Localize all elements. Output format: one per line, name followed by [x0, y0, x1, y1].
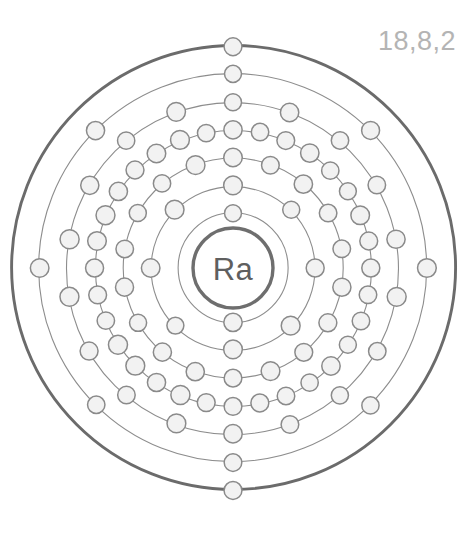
electron-m-16 — [129, 204, 146, 221]
electron-n-32 — [197, 124, 214, 141]
valence-configuration-label: 18,8,2 — [378, 28, 456, 55]
electron-m-10 — [224, 369, 242, 387]
electron-n-20 — [147, 373, 165, 391]
electron-m-7 — [319, 314, 337, 332]
electron-m-1 — [224, 148, 243, 167]
electron-m-2 — [262, 156, 280, 174]
electron-o-10 — [224, 425, 242, 443]
electron-o-13 — [80, 342, 98, 360]
electron-n-22 — [108, 335, 127, 354]
electron-p-3 — [418, 259, 437, 278]
electron-o-5 — [387, 230, 405, 248]
electron-m-17 — [153, 175, 170, 192]
electron-n-14 — [301, 374, 318, 391]
electron-m-9 — [261, 362, 280, 381]
electron-n-10 — [359, 286, 377, 304]
electron-o-1 — [224, 94, 241, 111]
electron-n-28 — [109, 182, 127, 200]
electron-n-26 — [88, 232, 107, 251]
electron-n-24 — [89, 286, 107, 304]
electron-n-21 — [126, 356, 145, 375]
electron-k-2 — [224, 313, 242, 331]
electron-n-11 — [352, 312, 370, 330]
electron-m-18 — [186, 156, 205, 175]
electron-m-14 — [116, 278, 134, 296]
electron-o-6 — [387, 287, 406, 306]
electron-n-19 — [171, 385, 190, 404]
electron-l-1 — [224, 176, 243, 195]
electron-n-8 — [360, 232, 378, 250]
electron-p-5 — [224, 454, 242, 472]
electron-m-12 — [153, 343, 171, 361]
electron-n-30 — [147, 144, 166, 163]
electron-n-29 — [126, 161, 144, 179]
electron-o-16 — [81, 176, 99, 194]
electron-n-7 — [351, 206, 370, 225]
electron-n-12 — [339, 336, 356, 353]
electron-k-1 — [225, 205, 242, 222]
electron-o-15 — [60, 230, 79, 249]
electron-m-8 — [295, 343, 313, 361]
electron-n-1 — [224, 121, 242, 139]
electron-o-11 — [167, 414, 186, 433]
electron-n-17 — [224, 398, 242, 416]
electron-o-12 — [118, 386, 136, 404]
electron-n-5 — [322, 162, 339, 179]
electron-p-6 — [88, 396, 105, 413]
electron-m-6 — [333, 278, 351, 296]
electron-p-7 — [30, 259, 49, 278]
electron-p-2 — [362, 121, 380, 139]
electron-m-3 — [294, 175, 312, 193]
electron-p-4 — [362, 397, 379, 414]
electron-m-11 — [186, 363, 204, 381]
electron-o-3 — [331, 132, 348, 149]
electron-n-31 — [171, 131, 190, 150]
electron-l-3 — [306, 259, 324, 277]
electron-n-15 — [277, 387, 295, 405]
electron-m-13 — [130, 314, 147, 331]
electron-l-8 — [165, 200, 184, 219]
electron-n-4 — [301, 144, 319, 162]
electron-o-9 — [281, 416, 299, 434]
electron-o-14 — [60, 287, 79, 306]
electron-p-8 — [86, 121, 104, 139]
electron-o-18 — [167, 103, 186, 122]
electron-l-7 — [141, 259, 160, 278]
electron-m-4 — [319, 204, 337, 222]
electron-n-3 — [277, 132, 295, 150]
electron-l-6 — [167, 317, 184, 334]
electron-l-5 — [224, 340, 243, 359]
electron-n-6 — [339, 183, 356, 200]
electron-n-13 — [322, 357, 340, 375]
electron-o-17 — [118, 132, 135, 149]
electron-m-15 — [116, 240, 134, 258]
electron-n-23 — [97, 312, 114, 329]
electron-p-1 — [224, 65, 241, 82]
electron-o-8 — [331, 387, 348, 404]
electron-l-4 — [281, 316, 300, 335]
electron-n-27 — [96, 206, 115, 225]
electron-q-2 — [224, 482, 242, 500]
bohr-model-diagram: Ra 18,8,2 — [0, 0, 465, 537]
electron-n-2 — [251, 123, 268, 140]
electron-n-25 — [86, 259, 104, 277]
electron-o-7 — [369, 343, 386, 360]
electron-n-18 — [197, 394, 215, 412]
electron-n-9 — [362, 259, 380, 277]
electron-o-2 — [280, 103, 298, 121]
electron-m-5 — [333, 240, 351, 258]
electron-q-1 — [224, 38, 242, 56]
electron-l-2 — [283, 201, 300, 218]
atom-svg-canvas: Ra — [0, 0, 465, 537]
electron-o-4 — [368, 176, 386, 194]
element-symbol-label: Ra — [213, 252, 254, 287]
electron-n-16 — [251, 394, 269, 412]
